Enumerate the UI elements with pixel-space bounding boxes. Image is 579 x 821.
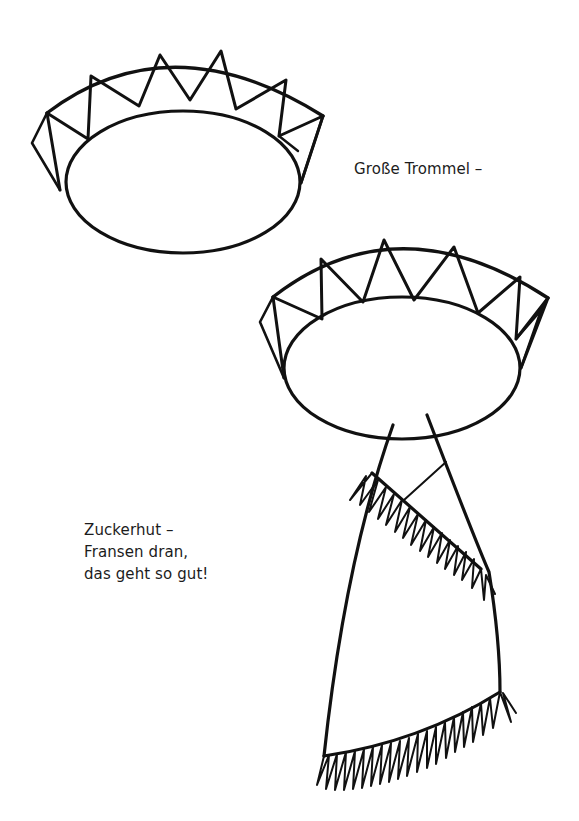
cone-illustration (317, 415, 516, 790)
cone-bottom-edge (324, 692, 500, 756)
drum-left-side (32, 113, 60, 190)
cone-lower-fringe (317, 692, 516, 790)
drum-caption: Große Trommel – (354, 158, 482, 180)
hat-caption-line-1: Zuckerhut – (84, 519, 209, 541)
drum-illustration (32, 51, 323, 253)
cone-left-edge (324, 425, 393, 756)
hat-caption-line-3: das geht so gut! (84, 563, 209, 585)
hat-band-illustration (260, 240, 548, 439)
drum-inner-ellipse (66, 111, 300, 253)
illustration-canvas (0, 0, 579, 821)
hat-band-zigzag (273, 240, 548, 378)
drum-zigzag (47, 51, 323, 190)
hat-caption-line-2: Fransen dran, (84, 541, 209, 563)
cone-fold-line (404, 462, 446, 500)
hat-caption: Zuckerhut – Fransen dran, das geht so gu… (84, 519, 209, 585)
hat-band-left-side (260, 297, 284, 378)
